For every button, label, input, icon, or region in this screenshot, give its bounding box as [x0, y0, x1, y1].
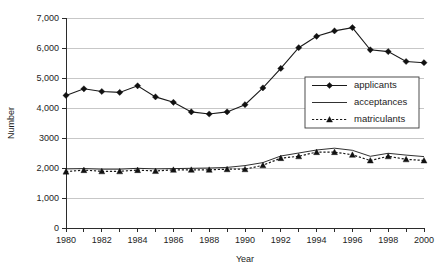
- x-tick-label: 1988: [199, 235, 219, 245]
- legend-label-applicants: applicants: [354, 79, 397, 90]
- x-axis-labels: 1980198219841986198819901992199419961998…: [56, 235, 434, 245]
- x-tick-label: 1980: [56, 235, 76, 245]
- x-tick-label: 1984: [128, 235, 148, 245]
- x-tick-label: 2000: [414, 235, 434, 245]
- data-point-applicants: [421, 60, 427, 66]
- y-axis-ticks: [62, 18, 66, 228]
- y-axis-title: Number: [6, 107, 16, 139]
- x-axis-ticks: [66, 228, 424, 232]
- y-tick-label: 0: [54, 223, 59, 233]
- chart-legend: applicantsacceptancesmatriculants: [305, 77, 419, 128]
- x-tick-label: 1994: [307, 235, 327, 245]
- y-tick-label: 4,000: [36, 103, 59, 113]
- data-point-applicants: [188, 109, 194, 115]
- x-tick-label: 1998: [378, 235, 398, 245]
- data-point-matriculants: [403, 156, 409, 162]
- y-tick-label: 2,000: [36, 163, 59, 173]
- x-tick-label: 1996: [342, 235, 362, 245]
- data-point-applicants: [63, 92, 69, 98]
- data-point-applicants: [81, 86, 87, 92]
- data-point-applicants: [206, 111, 212, 117]
- data-point-applicants: [135, 83, 141, 89]
- x-axis-title: Year: [236, 254, 254, 264]
- x-tick-label: 1986: [163, 235, 183, 245]
- x-tick-label: 1990: [235, 235, 255, 245]
- data-point-applicants: [152, 94, 158, 100]
- data-point-applicants: [170, 99, 176, 105]
- y-tick-label: 1,000: [36, 193, 59, 203]
- y-tick-label: 7,000: [36, 13, 59, 23]
- data-point-applicants: [314, 33, 320, 39]
- data-point-matriculants: [349, 152, 355, 158]
- data-point-applicants: [117, 89, 123, 95]
- y-tick-label: 3000: [39, 133, 59, 143]
- x-tick-label: 1992: [271, 235, 291, 245]
- data-point-applicants: [385, 49, 391, 55]
- data-point-applicants: [403, 58, 409, 64]
- x-tick-label: 1982: [92, 235, 112, 245]
- y-tick-label: 6,000: [36, 43, 59, 53]
- data-point-applicants: [331, 28, 337, 34]
- chart-canvas: 01,0002,00030004,0005,0006,0007,000 1980…: [0, 0, 445, 277]
- data-point-applicants: [224, 109, 230, 115]
- data-point-applicants: [99, 88, 105, 94]
- line-chart: 01,0002,00030004,0005,0006,0007,000 1980…: [0, 0, 445, 277]
- y-tick-label: 5,000: [36, 73, 59, 83]
- y-axis-labels: 01,0002,00030004,0005,0006,0007,000: [36, 13, 59, 233]
- legend-label-acceptances: acceptances: [354, 96, 408, 107]
- legend-label-matriculants: matriculants: [354, 113, 405, 124]
